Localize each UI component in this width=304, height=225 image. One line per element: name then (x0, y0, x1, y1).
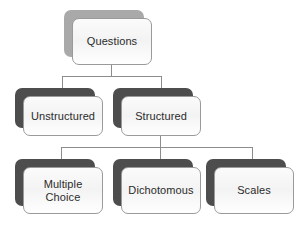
node-card[interactable]: Structured (121, 96, 201, 136)
connector-level2-bus (62, 76, 162, 77)
node-dichotomous[interactable]: Dichotomous (113, 159, 193, 206)
node-label: Scales (237, 184, 271, 197)
node-card[interactable]: Dichotomous (121, 167, 201, 214)
connector-level3-bus (61, 147, 253, 148)
node-label: Unstructured (31, 110, 95, 123)
node-multiple-choice[interactable]: Multiple Choice (15, 159, 95, 206)
node-label: Questions (87, 35, 137, 48)
node-label: Dichotomous (128, 184, 193, 197)
node-card[interactable]: Scales (214, 167, 294, 214)
connector-to-scales (252, 147, 253, 159)
connector-structured-down (160, 136, 161, 147)
connector-to-multiple-choice (61, 147, 62, 159)
connector-questions-down (111, 65, 112, 76)
node-card[interactable]: Questions (72, 18, 152, 65)
connector-to-structured (161, 76, 162, 88)
node-scales[interactable]: Scales (206, 159, 286, 206)
node-label: Structured (135, 110, 187, 123)
connector-to-dichotomous (160, 147, 161, 159)
node-card[interactable]: Unstructured (23, 96, 103, 136)
node-unstructured[interactable]: Unstructured (15, 88, 95, 128)
node-card[interactable]: Multiple Choice (23, 167, 103, 214)
node-label: Multiple Choice (44, 178, 83, 204)
node-questions[interactable]: Questions (64, 10, 144, 57)
hierarchy-diagram: Questions Unstructured Structured Multip… (0, 0, 304, 225)
node-structured[interactable]: Structured (113, 88, 193, 128)
connector-to-unstructured (62, 76, 63, 88)
